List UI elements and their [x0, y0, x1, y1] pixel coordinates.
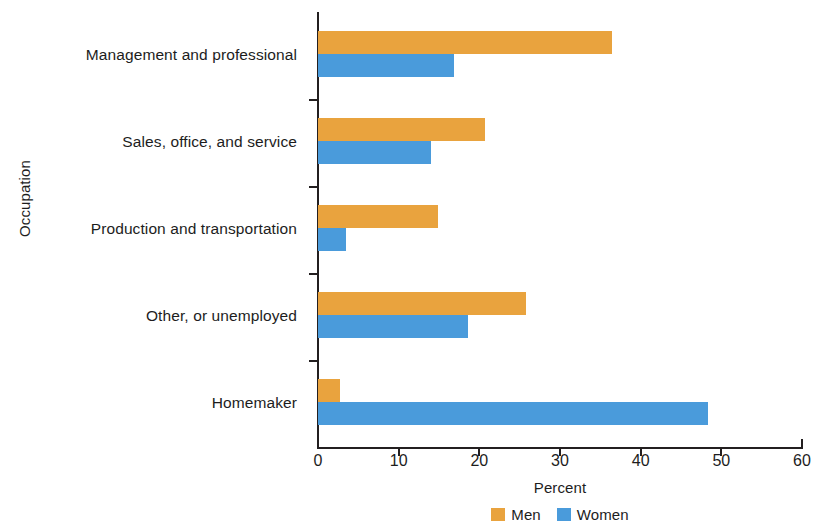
bar-men: [318, 379, 340, 402]
x-axis-tick-label: 0: [288, 452, 348, 470]
y-axis-tick: [309, 186, 318, 188]
legend-label: Men: [511, 506, 540, 523]
category-label: Homemaker: [0, 394, 297, 412]
x-axis-tick-label: 60: [772, 452, 818, 470]
y-axis-tick: [309, 273, 318, 275]
chart-legend: MenWomen: [318, 506, 802, 523]
category-label: Management and professional: [0, 46, 297, 64]
x-axis-title: Percent: [318, 479, 802, 496]
legend-swatch-icon: [491, 508, 505, 521]
bar-women: [318, 228, 346, 251]
bar-women: [318, 141, 431, 164]
category-label: Production and transportation: [0, 220, 297, 238]
x-axis-tick-label: 20: [449, 452, 509, 470]
bar-group-item: [318, 186, 802, 273]
legend-label: Women: [577, 506, 629, 523]
bar-men: [318, 118, 485, 141]
bar-men: [318, 292, 526, 315]
legend-item: Men: [491, 506, 540, 523]
category-label-group: Management and professionalSales, office…: [0, 12, 307, 447]
x-axis-tick-label: 40: [611, 452, 671, 470]
legend-item: Women: [557, 506, 629, 523]
x-axis-tick-label: 30: [530, 452, 590, 470]
bar-women: [318, 402, 708, 425]
x-axis-tick-label: 50: [691, 452, 751, 470]
bar-group-item: [318, 273, 802, 360]
bar-women: [318, 315, 468, 338]
category-label: Sales, office, and service: [0, 133, 297, 151]
y-axis-tick: [309, 99, 318, 101]
bar-men: [318, 205, 438, 228]
bar-men: [318, 31, 612, 54]
y-axis-tick: [309, 360, 318, 362]
bar-group-item: [318, 360, 802, 447]
x-axis-tick-label: 10: [369, 452, 429, 470]
bar-women: [318, 54, 454, 77]
plot-area: [318, 12, 802, 447]
bar-chart: Occupation Management and professionalSa…: [0, 0, 818, 529]
bar-group-item: [318, 12, 802, 99]
category-label: Other, or unemployed: [0, 307, 297, 325]
bar-group-item: [318, 99, 802, 186]
x-axis-tick-labels: 0102030405060: [318, 452, 802, 476]
legend-swatch-icon: [557, 508, 571, 521]
